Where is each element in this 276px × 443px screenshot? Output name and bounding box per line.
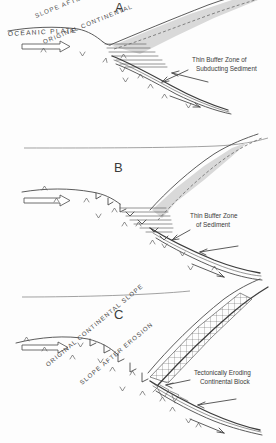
buffer-zone-pointer-b (172, 230, 190, 240)
buffer-zone-label-line1: Thin Buffer Zone of (192, 56, 247, 63)
slab-motion-arrow-upper-b (200, 246, 238, 255)
slab-motion-arrow-lower-c (190, 419, 224, 433)
original-continental-slope-label-c: ORIGINAL CONTINENTAL SLOPE (44, 282, 144, 368)
slab-motion-arrow-lower-b (192, 264, 224, 277)
buffer-zone-label-line2: Subducting Sediment (196, 65, 257, 73)
slab-motion-arrow-upper-c (198, 399, 236, 408)
trench-hinge (103, 42, 110, 45)
sea-surface-line-c (22, 291, 190, 297)
subducting-slab-top-b (150, 228, 260, 273)
panel-a: A OCEANIC PLATE SLOPE AFTER ACCRETION OR… (0, 0, 276, 148)
original-continental-slope-line-b (158, 138, 262, 220)
panel-a-diagram: A OCEANIC PLATE SLOPE AFTER ACCRETION OR… (0, 0, 276, 148)
sea-surface-line (24, 138, 268, 148)
panel-b-diagram: B Thin Buffer Zone of Sediment (0, 140, 276, 290)
eroding-block-label-line1: Tectonically Eroding (194, 369, 251, 377)
accretionary-wedge-fill-b (152, 142, 248, 218)
panel-c: C ORIGINAL CONTINENTAL SLOPE SLOPE AFTER… (0, 285, 276, 443)
accretionary-wedge-fill (112, 0, 258, 54)
buffer-zone-label-line1-b: Thin Buffer Zone (190, 212, 238, 219)
buffer-zone-label-line2-b: of Sediment (196, 221, 230, 228)
eroding-block-label-line2: Continental Block (200, 378, 251, 385)
panel-b: B Thin Buffer Zone of Sediment (0, 140, 276, 290)
panel-c-diagram: C ORIGINAL CONTINENTAL SLOPE SLOPE AFTER… (0, 285, 276, 443)
oceanic-plate-motion-arrow-b (24, 195, 70, 206)
fault-scarp-steps-b (96, 193, 126, 212)
slab-motion-arrow-upper (172, 71, 208, 82)
panel-letter-b: B (114, 160, 123, 175)
